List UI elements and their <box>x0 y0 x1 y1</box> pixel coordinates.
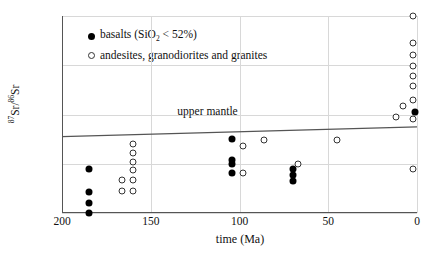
data-point-andesite <box>392 113 399 120</box>
data-point-andesite <box>334 137 341 144</box>
y-axis-line <box>62 16 63 213</box>
data-point-andesite <box>130 176 137 183</box>
x-axis-line <box>62 212 417 213</box>
data-point-andesite <box>410 116 417 123</box>
data-point-andesite <box>295 160 302 167</box>
x-axis-title: time (Ma) <box>216 232 264 247</box>
y-axis-sup-87: 87 <box>7 116 16 124</box>
data-point-basalt <box>289 178 296 185</box>
data-point-andesite <box>399 102 406 109</box>
data-point-andesite <box>261 137 268 144</box>
data-point-andesite <box>130 158 137 165</box>
data-point-basalt <box>229 169 236 176</box>
data-point-andesite <box>240 169 247 176</box>
data-point-andesite <box>119 187 126 194</box>
y-axis-sup-86: 86 <box>7 95 16 103</box>
y-axis-mid: Sr/ <box>9 102 21 115</box>
y-axis-title: 87Sr/86Sr <box>7 85 21 124</box>
data-point-andesite <box>410 52 417 59</box>
data-point-andesite <box>240 142 247 149</box>
y-axis-end: Sr <box>9 85 21 95</box>
gridline-vertical <box>151 16 152 213</box>
data-point-andesite <box>410 63 417 70</box>
plot-area: upper mantle 0.7030.7040.7050.7060.70720… <box>62 16 417 213</box>
figure-chart: basalts (SiO2 < 52%) andesites, granodio… <box>0 0 440 259</box>
data-point-basalt <box>85 165 92 172</box>
data-point-andesite <box>130 149 137 156</box>
data-point-basalt <box>412 109 419 116</box>
x-tick-label: 100 <box>231 216 248 228</box>
data-point-andesite <box>119 176 126 183</box>
data-point-andesite <box>130 166 137 173</box>
data-point-basalt <box>85 200 92 207</box>
upper-mantle-label: upper mantle <box>177 105 237 117</box>
data-point-andesite <box>130 141 137 148</box>
gridline-horizontal <box>62 213 417 214</box>
data-point-basalt <box>85 210 92 217</box>
data-point-andesite <box>410 96 417 103</box>
x-tick-label: 200 <box>53 216 70 228</box>
data-point-basalt <box>229 136 236 143</box>
x-tick-label: 150 <box>142 216 159 228</box>
gridline-vertical <box>240 16 241 213</box>
data-point-andesite <box>130 187 137 194</box>
data-point-basalt <box>229 160 236 167</box>
x-tick-label: 0 <box>414 216 420 228</box>
data-point-andesite <box>410 13 417 20</box>
data-point-andesite <box>410 73 417 80</box>
data-point-basalt <box>85 189 92 196</box>
data-point-andesite <box>410 83 417 90</box>
data-point-andesite <box>410 165 417 172</box>
data-point-andesite <box>410 40 417 47</box>
gridline-vertical <box>328 16 329 213</box>
x-tick-label: 50 <box>323 216 335 228</box>
